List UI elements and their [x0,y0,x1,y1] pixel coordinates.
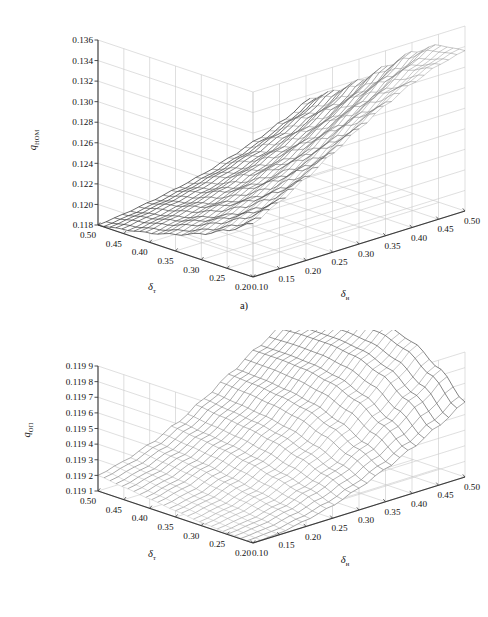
z-tick-label: 0.119 9 [66,361,94,371]
z-axis-title: qНОМ [27,130,40,151]
y-tick-label: 0.20 [305,266,321,276]
svg-text:δт: δт [148,548,156,561]
z-axis-ticks: 0.119 90.119 80.119 70.119 60.119 50.119… [66,361,98,496]
y-tick-label: 0.10 [252,282,268,292]
z-tick-label: 0.128 [72,117,93,127]
y-tick-label: 0.15 [278,540,294,550]
svg-text:δн: δн [341,554,350,567]
svg-text:δн: δн [341,288,350,301]
z-tick-label: 0.119 1 [66,486,94,496]
z-tick-label: 0.126 [72,138,93,148]
y-axis-title: δн [341,554,350,567]
z-tick-label: 0.118 [73,220,94,230]
panel-a-caption: a) [0,300,488,311]
x-tick-label: 0.40 [132,247,148,257]
y-tick-label: 0.50 [464,216,480,226]
x-axis-title: δт [148,548,156,561]
y-tick-label: 0.15 [278,274,294,284]
x-tick-label: 0.50 [80,230,96,240]
y-tick-label: 0.30 [358,249,374,259]
z-tick-label: 0.119 4 [66,439,94,449]
y-tick-label: 0.40 [411,499,427,509]
x-axis-title: δт [148,281,156,294]
z-tick-label: 0.124 [72,159,93,169]
x-tick-label: 0.30 [183,265,199,275]
plot-panel-a: 0.1360.1340.1320.1300.1280.1260.1240.122… [0,0,488,330]
z-tick-label: 0.132 [72,76,93,86]
x-tick-label: 0.35 [157,522,173,532]
figure-container: 0.1360.1340.1320.1300.1280.1260.1240.122… [0,0,488,617]
y-axis-title: δн [341,288,350,301]
z-tick-label: 0.119 6 [66,408,94,418]
x-tick-label: 0.40 [132,513,148,523]
y-tick-label: 0.10 [252,548,268,558]
x-tick-label: 0.50 [80,496,96,506]
z-tick-label: 0.119 3 [66,455,94,465]
x-tick-label: 0.25 [209,539,225,549]
y-tick-label: 0.30 [358,515,374,525]
x-tick-label: 0.45 [106,239,122,249]
y-tick-label: 0.35 [384,241,400,251]
z-tick-label: 0.136 [72,35,93,45]
y-tick-label: 0.40 [411,233,427,243]
svg-text:qНОМ: qНОМ [27,130,40,151]
z-axis-ticks: 0.1360.1340.1320.1300.1280.1260.1240.122… [72,35,98,230]
svg-text:qОП: qОП [21,422,34,437]
z-tick-label: 0.119 7 [66,392,94,402]
x-tick-label: 0.35 [157,256,173,266]
z-tick-label: 0.119 2 [66,471,94,481]
z-tick-label: 0.120 [72,200,93,210]
surface-mesh [98,330,465,543]
x-tick-label: 0.20 [235,548,251,558]
x-tick-label: 0.25 [209,273,225,283]
y-tick-label: 0.35 [384,507,400,517]
svg-text:δт: δт [148,281,156,294]
x-tick-label: 0.30 [183,531,199,541]
y-tick-label: 0.25 [331,523,347,533]
surface-plot-b: 0.119 90.119 80.119 70.119 60.119 50.119… [0,330,488,617]
z-axis-title: qОП [21,422,34,437]
y-tick-label: 0.25 [331,257,347,267]
z-tick-label: 0.130 [72,97,93,107]
z-tick-label: 0.119 5 [66,424,94,434]
x-tick-label: 0.20 [235,282,251,292]
z-tick-label: 0.134 [72,56,93,66]
plot-panel-b: 0.119 90.119 80.119 70.119 60.119 50.119… [0,330,488,617]
y-tick-label: 0.50 [464,482,480,492]
z-tick-label: 0.122 [72,179,93,189]
y-tick-label: 0.45 [437,490,453,500]
x-tick-label: 0.45 [106,505,122,515]
y-tick-label: 0.45 [437,224,453,234]
surface-plot-a: 0.1360.1340.1320.1300.1280.1260.1240.122… [0,0,488,330]
y-tick-label: 0.20 [305,532,321,542]
z-tick-label: 0.119 8 [66,377,94,387]
